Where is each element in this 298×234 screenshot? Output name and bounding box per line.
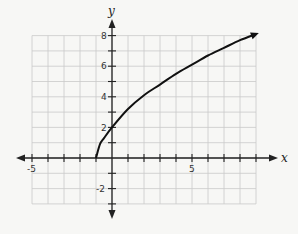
y-tick-label-neg2: -2 [96, 184, 105, 194]
chart: x y -5 5 8 6 4 2 -2 [0, 0, 298, 234]
x-tick-label-5: 5 [189, 164, 195, 174]
grid [32, 36, 256, 204]
y-axis-up-arrow-icon [109, 19, 116, 28]
y-tick-label-4: 4 [101, 92, 107, 102]
y-tick-label-6: 6 [101, 61, 107, 71]
y-tick-label-8: 8 [101, 31, 107, 41]
curve-arrow-icon [250, 33, 259, 40]
y-axis-label: y [107, 4, 115, 18]
y-axis-down-arrow-icon [109, 210, 116, 219]
y-tick-label-2: 2 [101, 123, 107, 133]
x-axis-right-arrow-icon [269, 155, 278, 162]
x-axis-label: x [281, 151, 288, 165]
x-axis-left-arrow-icon [16, 155, 25, 162]
x-tick-label-neg5: -5 [27, 164, 36, 174]
